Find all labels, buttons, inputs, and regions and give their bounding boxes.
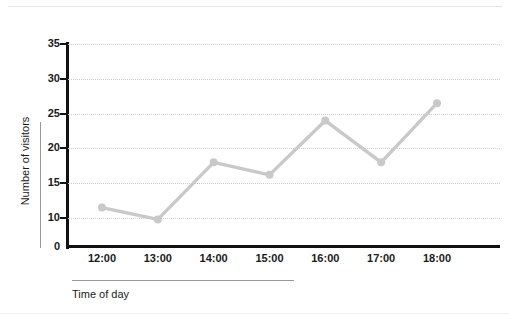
x-tick-label: 15:00	[242, 252, 298, 264]
y-tick-label: 30	[34, 72, 60, 86]
y-tick-label-text: 35	[48, 37, 60, 49]
x-tick-label: 16:00	[297, 252, 353, 264]
x-axis-title-rule	[72, 280, 294, 281]
circle-marker-icon	[433, 99, 441, 107]
y-tick-mark	[60, 78, 66, 80]
scan-artifact-line-top	[8, 6, 502, 7]
y-tick-label-text: 10	[48, 211, 60, 223]
circle-marker-icon	[266, 171, 274, 179]
circle-marker-icon	[154, 215, 162, 223]
x-tick-label: 17:00	[353, 252, 409, 264]
y-tick-mark	[60, 182, 66, 184]
circle-marker-icon	[98, 204, 106, 212]
y-tick-label-text: 25	[48, 107, 60, 119]
circle-marker-icon	[321, 117, 329, 125]
series-line-visitors	[68, 44, 500, 247]
x-tick-label: 12:00	[74, 252, 130, 264]
y-tick-mark	[60, 147, 66, 149]
series-polyline	[102, 103, 437, 219]
y-tick-mark	[60, 217, 66, 219]
scan-artifact-line-bottom	[0, 313, 509, 314]
y-tick-label: 10	[34, 211, 60, 225]
y-tick-label: 0	[34, 240, 60, 254]
y-tick-label: 20	[34, 141, 60, 155]
y-tick-label-text: 15	[48, 176, 60, 188]
circle-marker-icon	[210, 158, 218, 166]
y-tick-mark	[60, 43, 66, 45]
y-tick-mark	[60, 113, 66, 115]
y-tick-label-text: 0	[54, 240, 60, 252]
x-axis-title: Time of day	[72, 288, 129, 300]
y-tick-label-text: 30	[48, 72, 60, 84]
y-tick-label: 15	[34, 176, 60, 190]
x-tick-label: 14:00	[186, 252, 242, 264]
chart-figure: Number of visitors Time of day 353025201…	[0, 0, 509, 315]
x-tick-label: 18:00	[409, 252, 465, 264]
plot-area	[68, 44, 500, 247]
x-tick-label: 13:00	[130, 252, 186, 264]
y-tick-label-text: 20	[48, 141, 60, 153]
circle-marker-icon	[377, 158, 385, 166]
y-tick-label: 25	[34, 107, 60, 121]
y-tick-label: 35	[34, 37, 60, 51]
y-axis-title: Number of visitors	[19, 96, 31, 226]
